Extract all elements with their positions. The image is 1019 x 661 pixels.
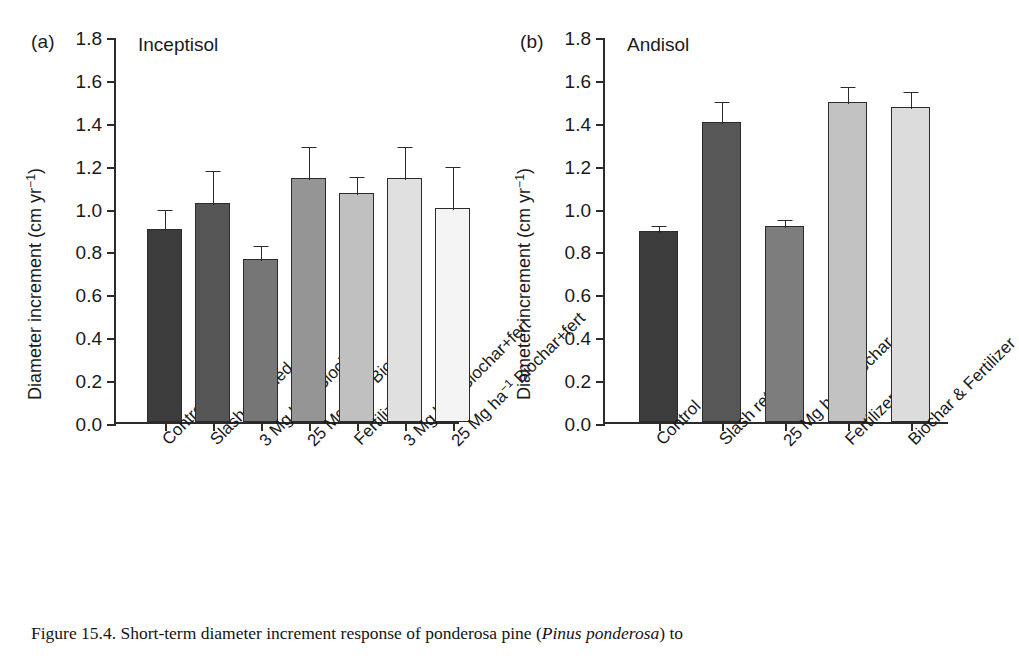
y-axis-tick-label: 0.0 [76,415,102,434]
y-axis-label-b: Diameter increment (cm yr−1) [513,168,535,400]
y-axis-tick-label: 0.2 [565,372,591,391]
bar [702,122,741,422]
y-axis-tick-label: 1.4 [76,114,102,133]
bar [891,107,930,422]
y-axis-tick-label: 0.4 [76,329,102,348]
y-axis-tick [107,424,116,426]
caption-figure-number: Figure 15.4. [31,623,116,643]
y-axis-tick [107,38,116,40]
caption-text-part2: ) to [659,623,683,643]
y-axis-tick [107,167,116,169]
y-axis-tick-label: 0.2 [76,372,102,391]
plot-area-a: Inceptisol 0.00.20.40.60.81.01.21.41.61.… [114,38,459,424]
error-bar-cap [777,220,792,221]
y-axis-tick [596,381,605,383]
y-axis-tick [596,124,605,126]
y-axis-tick [107,295,116,297]
error-bar [405,147,406,179]
error-bar-cap [651,226,666,227]
error-bar-cap [205,171,220,172]
y-axis-label-b-exp: −1 [513,174,527,188]
y-axis-tick-label: 1.2 [565,157,591,176]
y-axis-tick-label: 0.0 [565,415,591,434]
error-bar-cap [349,177,364,178]
error-bar [722,102,723,123]
error-bar [261,246,262,261]
y-axis-tick [596,81,605,83]
y-axis-label-a-close: ) [25,168,45,174]
error-bar-cap [253,246,268,247]
bar [291,178,326,422]
plot-area-b: Andisol 0.00.20.40.60.81.01.21.41.61.8Co… [603,38,948,424]
bar [387,178,422,422]
y-axis-tick-label: 0.6 [565,286,591,305]
y-axis-tick [596,167,605,169]
y-axis-tick [107,81,116,83]
panel-a: (a) Diameter increment (cm yr−1) Incepti… [0,0,500,600]
error-bar [309,147,310,179]
error-bar [357,177,358,194]
y-axis-label-b-close: ) [514,168,534,174]
y-axis-label-a-text: Diameter increment (cm yr [25,188,45,400]
y-axis-tick [107,124,116,126]
y-axis-tick [596,38,605,40]
error-bar-cap [445,167,460,168]
y-axis-tick [596,338,605,340]
panel-a-title: Inceptisol [138,34,218,56]
caption-species-name: Pinus ponderosa [542,623,659,643]
y-axis-tick [107,210,116,212]
error-bar [453,167,454,210]
figure-caption: Figure 15.4. Short-term diameter increme… [31,622,965,646]
bar [828,102,867,422]
error-bar-cap [903,92,918,93]
bar [639,231,678,422]
y-axis-tick [596,210,605,212]
error-bar-cap [714,102,729,103]
panel-a-letter: (a) [31,31,55,53]
panel-b-letter: (b) [520,31,544,53]
bar [147,229,182,422]
error-bar [785,220,786,228]
error-bar-cap [840,87,855,88]
error-bar [165,210,166,231]
error-bar [848,87,849,104]
y-axis-tick-label: 1.8 [76,29,102,48]
error-bar [659,226,660,234]
y-axis-tick-label: 0.8 [565,243,591,262]
panel-b: (b) Diameter increment (cm yr−1) Andisol… [496,0,996,600]
y-axis-label-a-exp: −1 [24,174,38,188]
y-axis-label-a: Diameter increment (cm yr−1) [24,168,46,400]
bar [435,208,470,422]
y-axis-tick-label: 1.6 [565,71,591,90]
error-bar [911,92,912,109]
error-bar-cap [157,210,172,211]
y-axis-tick-label: 1.0 [565,200,591,219]
error-bar-cap [301,147,316,148]
y-axis-tick [107,338,116,340]
y-axis-tick-label: 1.6 [76,71,102,90]
error-bar [213,171,214,205]
y-axis-tick-label: 0.8 [76,243,102,262]
bar [243,259,278,422]
bar [339,193,374,422]
y-axis-tick-label: 1.8 [565,29,591,48]
y-axis-tick-label: 0.4 [565,329,591,348]
y-axis-tick-label: 1.2 [76,157,102,176]
y-axis-tick-label: 0.6 [76,286,102,305]
y-axis-tick [596,424,605,426]
y-axis-tick [107,252,116,254]
y-axis-tick-label: 1.0 [76,200,102,219]
y-axis-tick [107,381,116,383]
bar [765,226,804,422]
y-axis-tick [596,252,605,254]
panel-b-title: Andisol [627,34,689,56]
y-axis-label-b-text: Diameter increment (cm yr [514,188,534,400]
error-bar-cap [397,147,412,148]
y-axis-tick-label: 1.4 [565,114,591,133]
caption-text-part1: Short-term diameter increment response o… [116,623,542,643]
bar [195,203,230,422]
y-axis-tick [596,295,605,297]
